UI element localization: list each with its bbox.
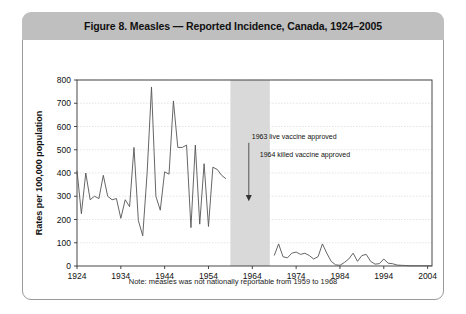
annotation-label-killed-vaccine: 1964 killed vaccine approved	[260, 151, 350, 159]
chart-plot-area: 0100200300400500600700800 19241934194419…	[22, 34, 444, 300]
y-tick-label: 400	[57, 168, 71, 178]
series-line-1	[77, 87, 226, 236]
y-tick-label: 500	[57, 145, 71, 155]
measles-incidence-line-chart: 0100200300400500600700800 19241934194419…	[22, 34, 444, 300]
y-tick-label: 200	[57, 215, 71, 225]
y-axis-title-label: Rates per 100,000 population	[34, 111, 44, 236]
y-axis-title: Rates per 100,000 population	[34, 111, 44, 236]
annotation-label-live-vaccine: 1963 live vaccine approved	[252, 133, 337, 141]
y-tick-label: 700	[57, 98, 71, 108]
figure-footnote: Note: measles was not nationally reporta…	[22, 277, 444, 286]
shaded-band-group	[230, 80, 269, 266]
series-line-2	[274, 244, 432, 266]
figure-container: Figure 8. Measles — Reported Incidence, …	[22, 12, 444, 300]
y-tick-label: 100	[57, 238, 71, 248]
y-tick-label: 600	[57, 122, 71, 132]
y-tick-label: 300	[57, 191, 71, 201]
y-tick-label: 0	[66, 261, 71, 271]
y-axis-ticks: 0100200300400500600700800	[57, 75, 77, 271]
y-tick-label: 800	[57, 75, 71, 85]
